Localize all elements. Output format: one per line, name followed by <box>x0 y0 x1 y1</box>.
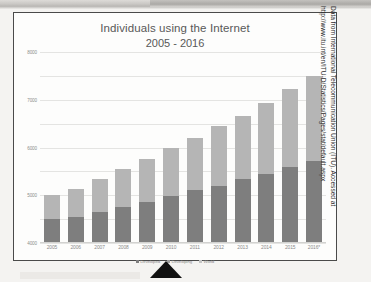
x-axis-line <box>40 242 326 243</box>
bar-segment-developing[interactable] <box>258 174 274 243</box>
gridline: 0 <box>40 243 326 244</box>
bar-segment-developed[interactable] <box>92 179 108 212</box>
x-axis-tick-label: 2012 <box>211 245 227 255</box>
source-caption-line1: Data from International Telecommunicatio… <box>329 6 339 256</box>
chart-title: Individuals using the Internet <box>14 21 336 35</box>
bar-segment-developed[interactable] <box>68 189 84 216</box>
bar-column[interactable] <box>68 52 84 243</box>
bar-column[interactable] <box>163 52 179 243</box>
bar-segment-developed[interactable] <box>44 195 60 219</box>
bar-column[interactable] <box>115 52 131 243</box>
legend-swatch <box>199 260 202 263</box>
x-axis-tick-label: 2006 <box>68 245 84 255</box>
triangle-pointer-icon <box>150 261 182 278</box>
bar-segment-developing[interactable] <box>92 212 108 243</box>
y-axis-tick-label: 8000 <box>27 50 37 55</box>
bar-segment-developing[interactable] <box>211 186 227 243</box>
x-axis-tick-label: 2005 <box>44 245 60 255</box>
bar-segment-developed[interactable] <box>163 148 179 197</box>
bar-segment-developed[interactable] <box>187 138 203 191</box>
chart-subtitle: 2005 - 2016 <box>14 36 336 50</box>
bar-segment-developing[interactable] <box>235 179 251 243</box>
plot-area: 800070006000500040003000200010000 <box>40 52 326 243</box>
bar-column[interactable] <box>44 52 60 243</box>
bar-column[interactable] <box>187 52 203 243</box>
bar-column[interactable] <box>139 52 155 243</box>
bar-segment-developing[interactable] <box>187 190 203 243</box>
legend-swatch <box>136 260 139 263</box>
x-axis-tick-label: 2011 <box>187 245 203 255</box>
bar-segment-developed[interactable] <box>258 103 274 173</box>
bar-segment-developed[interactable] <box>211 126 227 186</box>
bar-column[interactable] <box>92 52 108 243</box>
page-smudge <box>20 272 140 279</box>
legend-label: World <box>204 259 215 264</box>
chart-frame: Individuals using the Internet 2005 - 20… <box>13 12 337 261</box>
bar-segment-developed[interactable] <box>139 159 155 202</box>
x-axis-tick-label: 2008 <box>115 245 131 255</box>
x-axis-tick-label: 2007 <box>92 245 108 255</box>
bar-segment-developing[interactable] <box>68 217 84 243</box>
bar-segment-developed[interactable] <box>115 169 131 207</box>
x-axis-tick-label: 2015 <box>282 245 298 255</box>
y-axis-tick-label: 7000 <box>27 97 37 102</box>
bar-segment-developed[interactable] <box>282 89 298 167</box>
slide-page: Individuals using the Internet 2005 - 20… <box>0 0 371 282</box>
bar-series-group <box>40 52 326 243</box>
legend-item[interactable]: World <box>199 259 214 264</box>
bar-segment-developing[interactable] <box>139 202 155 243</box>
x-axis-tick-label: 2013 <box>235 245 251 255</box>
bar-column[interactable] <box>235 52 251 243</box>
bar-segment-developed[interactable] <box>235 116 251 178</box>
bar-segment-developing[interactable] <box>163 196 179 243</box>
source-caption-line2: http://www.itu.int/en/ITU-D/Statistics/P… <box>319 6 329 256</box>
bar-segment-developing[interactable] <box>44 219 60 243</box>
x-axis-labels: 2005200620072008200920102011201220132014… <box>40 245 326 255</box>
source-caption: Data from International Telecommunicatio… <box>318 6 338 256</box>
bar-column[interactable] <box>211 52 227 243</box>
x-axis-tick-label: 2014 <box>258 245 274 255</box>
bar-segment-developing[interactable] <box>282 167 298 243</box>
x-axis-tick-label: 2009 <box>139 245 155 255</box>
bar-segment-developing[interactable] <box>115 207 131 243</box>
y-axis-tick-label: 6000 <box>27 145 37 150</box>
y-axis-tick-label: 5000 <box>27 193 37 198</box>
bar-column[interactable] <box>258 52 274 243</box>
bar-column[interactable] <box>282 52 298 243</box>
y-axis-tick-label: 4000 <box>27 241 37 246</box>
x-axis-tick-label: 2010 <box>163 245 179 255</box>
